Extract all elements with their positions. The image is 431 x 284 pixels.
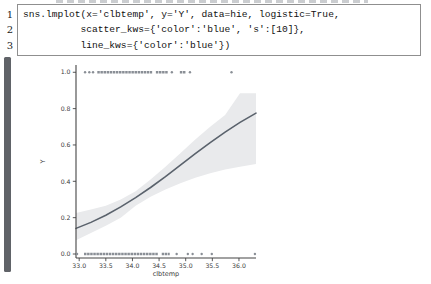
y-axis-label: Y	[39, 159, 47, 164]
line-number: 1	[0, 7, 13, 22]
scatter-point	[189, 71, 191, 73]
scatter-point	[254, 253, 256, 255]
y-tick-label: 0.8	[61, 105, 71, 112]
scatter-point	[200, 253, 202, 255]
x-tick-label: 33.0	[72, 262, 86, 269]
y-tick-label: 1.0	[61, 68, 71, 75]
scatter-point	[187, 253, 189, 255]
x-tick-label: 34.0	[126, 262, 140, 269]
scatter-point	[84, 71, 86, 73]
scatter-point	[211, 253, 213, 255]
x-tick-label: 34.5	[152, 262, 166, 269]
scatter-point	[175, 253, 177, 255]
x-axis-label: clbtemp	[153, 270, 180, 278]
scatter-point	[76, 253, 78, 255]
x-tick-label: 36.0	[232, 262, 246, 269]
y-tick-label: 0.4	[61, 178, 71, 185]
y-tick-label: 0.2	[61, 214, 71, 221]
line-number: 3	[0, 38, 13, 53]
page: 1 2 3 sns.lmplot(x='clbtemp', y='Y', dat…	[0, 0, 431, 284]
lmplot-chart: 33.033.534.034.535.035.536.00.00.20.40.6…	[0, 58, 431, 284]
scatter-point	[88, 71, 90, 73]
x-tick-label: 35.0	[179, 262, 193, 269]
scatter-point	[171, 71, 173, 73]
scatter-point	[191, 253, 193, 255]
y-tick-label: 0.6	[61, 141, 71, 148]
code-box: sns.lmplot(x='clbtemp', y='Y', data=hie,…	[17, 4, 421, 56]
code-line: line_kws={'color':'blue'})	[23, 38, 420, 53]
x-tick-label: 33.5	[99, 262, 113, 269]
code-line-numbers: 1 2 3	[0, 7, 13, 53]
y-tick-label: 0.0	[61, 250, 71, 257]
scatter-point	[92, 71, 94, 73]
line-number: 2	[0, 22, 13, 37]
scatter-point	[230, 71, 232, 73]
cropped-text-remnant	[56, 0, 368, 3]
confidence-band	[76, 93, 256, 240]
code-line: scatter_kws={'color':'blue', 's':[10]},	[23, 22, 420, 37]
x-tick-label: 35.5	[205, 262, 219, 269]
code-line: sns.lmplot(x='clbtemp', y='Y', data=hie,…	[23, 7, 420, 22]
